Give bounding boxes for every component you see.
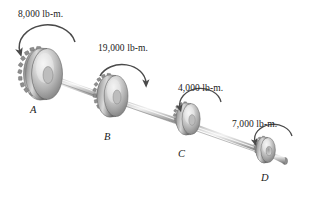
gear-a-hub xyxy=(43,67,53,84)
gear-c xyxy=(173,102,200,135)
gear-label-d: D xyxy=(261,172,269,183)
shaft-shadow-line xyxy=(46,78,268,156)
torsion-shaft-figure: 8,000 lb-m. 19,000 lb-m. 4,000 lb-m. 7,0… xyxy=(0,0,326,198)
torque-label-a: 8,000 lb-m. xyxy=(18,9,63,19)
torque-label-b: 19,000 lb-m. xyxy=(98,43,148,53)
torque-label-d: 7,000 lb-m. xyxy=(232,119,277,129)
gear-b-hub xyxy=(113,90,121,104)
figure-canvas xyxy=(0,0,326,198)
shaft-highlight xyxy=(46,74,268,152)
gear-label-c: C xyxy=(178,148,185,159)
torque-arrow-a xyxy=(19,25,75,52)
gear-d-bore xyxy=(266,147,272,156)
gear-label-a: A xyxy=(30,104,36,115)
gear-d xyxy=(254,136,276,163)
gear-b xyxy=(93,73,128,117)
gear-c-hub xyxy=(189,115,195,126)
torque-label-c: 4,000 lb-m. xyxy=(178,83,223,93)
gear-a xyxy=(18,46,63,100)
gear-label-b: B xyxy=(104,131,110,142)
